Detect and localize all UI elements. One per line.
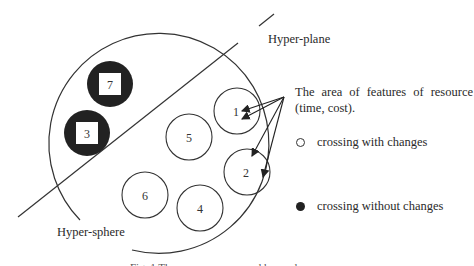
svg-text:7: 7 [107, 78, 113, 92]
figure-caption: Fig. 1 The resource space and hyperplane [130, 258, 313, 266]
node-6: 6 [122, 172, 168, 218]
filled-circle-icon [296, 202, 305, 211]
node-5: 5 [166, 114, 212, 160]
svg-text:1: 1 [233, 105, 239, 119]
hyperplane-label: Hyper-plane [268, 32, 330, 47]
svg-text:4: 4 [197, 202, 203, 216]
node-3: 3 [64, 110, 110, 156]
node-1: 1 [214, 88, 260, 134]
svg-text:5: 5 [186, 131, 192, 145]
resource-area-description: The area of features of resource (time, … [295, 84, 473, 116]
hyperplane-line-stub [259, 14, 274, 26]
open-circle-icon [296, 138, 305, 147]
hypersphere-label: Hyper-sphere [57, 225, 125, 240]
node-7: 7 [87, 61, 133, 107]
svg-text:3: 3 [84, 127, 90, 141]
legend-filled: crossing without changes [296, 199, 443, 214]
legend-filled-label: crossing without changes [317, 199, 443, 214]
svg-text:2: 2 [243, 166, 249, 180]
node-2: 2 [224, 149, 270, 195]
legend-open-label: crossing with changes [317, 135, 427, 150]
hyperplane-line [18, 43, 238, 217]
legend-open: crossing with changes [296, 135, 427, 150]
node-4: 4 [177, 185, 223, 231]
svg-text:6: 6 [142, 189, 148, 203]
